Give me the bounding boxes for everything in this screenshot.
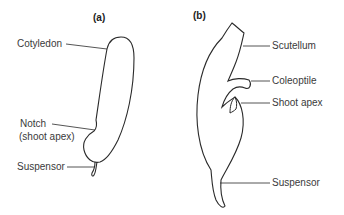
panel-a-label: (a)	[93, 12, 105, 23]
notch-leader	[52, 124, 95, 130]
panel-b-label: (b)	[193, 10, 206, 21]
cotyledon-label: Cotyledon	[17, 38, 62, 49]
notch-sublabel: (shoot apex)	[19, 131, 75, 142]
suspensor-a-label: Suspensor	[17, 161, 65, 172]
dicot-suspensor	[92, 162, 97, 176]
notch-label: Notch	[20, 118, 46, 129]
suspensor-b-label: Suspensor	[272, 177, 320, 188]
scutellum-label: Scutellum	[272, 40, 316, 51]
coleoptile-label: Coleoptile	[272, 75, 316, 86]
dicot-embryo-outline	[84, 37, 134, 162]
cotyledon-leader	[66, 44, 107, 49]
monocot-embryo-outline	[197, 23, 250, 207]
shoot-apex-label: Shoot apex	[272, 97, 323, 108]
